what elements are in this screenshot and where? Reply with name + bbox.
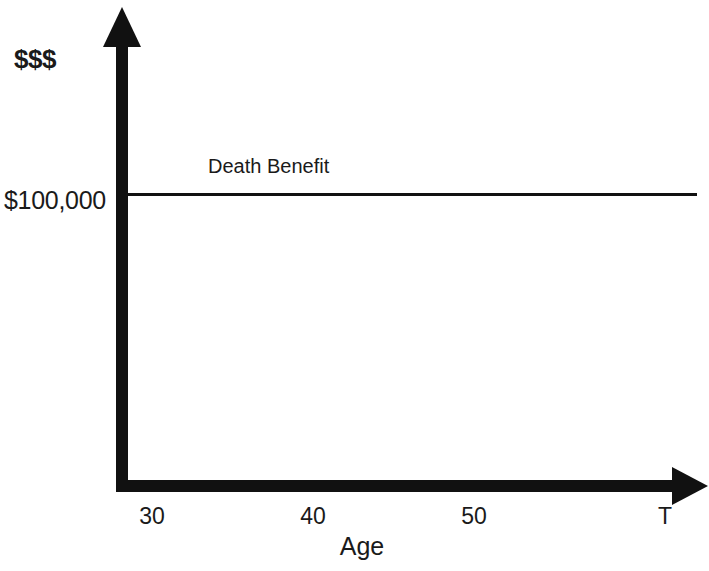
x-axis-title: Age: [340, 534, 384, 559]
x-axis-tick-label-30: 30: [139, 505, 165, 528]
series-line-death-benefit: [126, 193, 697, 196]
death-benefit-chart: $$$ $100,000 Death Benefit 30 40 50 T Ag…: [0, 0, 709, 571]
x-axis-arrow-icon: [672, 467, 708, 505]
y-axis-line: [116, 42, 128, 492]
x-axis-tick-label-T: T: [658, 505, 672, 528]
y-axis-arrow-icon: [103, 7, 141, 47]
x-axis-tick-label-50: 50: [461, 505, 487, 528]
x-axis-tick-label-40: 40: [300, 505, 326, 528]
x-axis-line: [116, 480, 681, 492]
chart-canvas: [0, 0, 709, 571]
y-axis-tick-label: $100,000: [4, 188, 106, 213]
series-annotation-death-benefit: Death Benefit: [208, 156, 329, 176]
y-axis-title: $$$: [14, 46, 56, 72]
